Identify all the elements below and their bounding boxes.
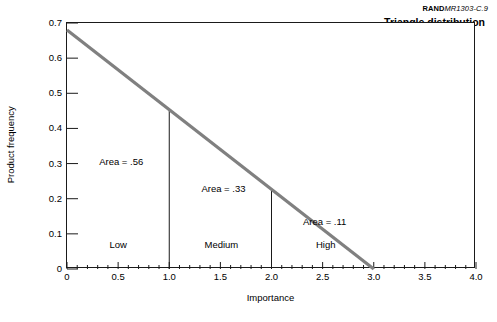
x-tick-label: 1.0 bbox=[163, 272, 176, 282]
distribution-line bbox=[67, 30, 374, 269]
source-credit: RANDMR1303-C.9 bbox=[422, 5, 488, 13]
source-credit-prefix: RAND bbox=[422, 4, 444, 13]
plot-area: 00.10.20.30.40.50.60.7 00.51.01.52.02.53… bbox=[66, 22, 475, 268]
x-tick-label: 2.0 bbox=[265, 272, 278, 282]
y-tick-label: 0.3 bbox=[49, 159, 62, 169]
x-tick-label: 1.5 bbox=[214, 272, 227, 282]
y-axis-major-ticks bbox=[67, 23, 78, 269]
plot-annotation-label: Area = .33 bbox=[201, 184, 245, 194]
x-tick-label: 2.5 bbox=[316, 272, 329, 282]
x-axis-title: Importance bbox=[66, 293, 475, 303]
plot-annotation-label: Medium bbox=[204, 241, 238, 251]
x-tick-label: 4.0 bbox=[469, 272, 482, 282]
y-tick-label: 0.4 bbox=[49, 124, 62, 134]
y-axis-title: Product frequency bbox=[4, 22, 18, 268]
x-tick-label: 0 bbox=[64, 272, 69, 282]
y-tick-label: 0.5 bbox=[49, 89, 62, 99]
y-tick-label: 0.2 bbox=[49, 194, 62, 204]
plot-annotation-label: Area = .11 bbox=[303, 217, 346, 227]
y-tick-label: 0 bbox=[57, 264, 62, 274]
plot-annotation-label: High bbox=[316, 241, 336, 251]
plot-annotation-label: Low bbox=[109, 241, 126, 251]
plot-canvas bbox=[67, 23, 476, 269]
x-tick-label: 3.0 bbox=[367, 272, 380, 282]
source-credit-rest: MR1303-C.9 bbox=[444, 4, 488, 13]
y-tick-label: 0.1 bbox=[49, 229, 62, 239]
distribution-line-segment bbox=[67, 30, 374, 269]
x-tick-label: 3.5 bbox=[418, 272, 431, 282]
plot-annotation-label: Area = .56 bbox=[99, 157, 143, 167]
y-tick-label: 0.6 bbox=[49, 53, 62, 63]
x-tick-label: 0.5 bbox=[112, 272, 125, 282]
chart-figure: RANDMR1303-C.9 Triangle distribution Pro… bbox=[0, 0, 497, 322]
y-tick-label: 0.7 bbox=[49, 18, 62, 28]
y-axis-title-label: Product frequency bbox=[6, 106, 16, 183]
